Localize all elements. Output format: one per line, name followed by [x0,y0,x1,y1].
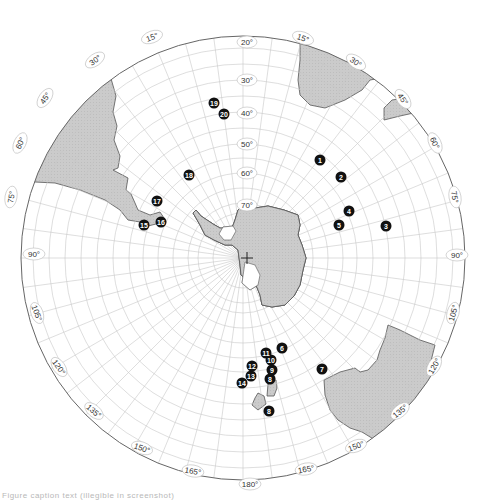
svg-text:4: 4 [347,208,351,215]
svg-text:16: 16 [157,219,165,226]
svg-text:165°: 165° [297,464,315,476]
station-marker[interactable]: 2 [336,172,347,183]
latitude-label: 40° [237,107,257,119]
svg-text:8: 8 [268,376,272,383]
station-marker[interactable]: 4 [344,206,355,217]
svg-text:165°: 165° [184,466,202,478]
longitude-label: 90° [446,249,468,261]
svg-text:30°: 30° [241,76,253,85]
svg-text:7: 7 [320,366,324,373]
svg-text:70°: 70° [241,201,253,210]
svg-text:19: 19 [210,100,218,107]
svg-text:3: 3 [384,223,388,230]
svg-text:9: 9 [270,367,274,374]
station-marker[interactable]: 19 [209,98,220,109]
svg-text:50°: 50° [241,140,253,149]
svg-text:11: 11 [262,350,270,357]
station-marker[interactable]: 1 [315,155,326,166]
svg-text:14: 14 [238,380,246,387]
longitude-label: 45° [34,86,56,111]
longitude-label: 30° [83,49,108,71]
svg-text:2: 2 [339,174,343,181]
svg-text:15: 15 [140,222,148,229]
station-marker[interactable]: 8 [264,406,275,417]
svg-text:5: 5 [337,222,341,229]
station-marker[interactable]: 14 [237,378,248,389]
svg-text:18: 18 [185,172,193,179]
station-marker[interactable]: 7 [317,364,328,375]
station-marker[interactable]: 3 [381,221,392,232]
svg-text:40°: 40° [241,109,253,118]
latitude-label: 60° [237,167,257,179]
svg-text:13: 13 [247,373,255,380]
station-marker[interactable]: 15 [139,220,150,231]
svg-text:20: 20 [220,111,228,118]
latitude-label: 30° [237,74,257,86]
station-marker[interactable]: 6 [277,343,288,354]
station-marker[interactable]: 13 [246,371,257,382]
latitude-label: 50° [237,138,257,150]
svg-text:17: 17 [153,198,161,205]
station-marker[interactable]: 16 [156,217,167,228]
longitude-label: 180° [239,478,261,490]
figure-caption: Figure caption text (illegible in screen… [2,491,174,500]
station-marker[interactable]: 17 [152,196,163,207]
svg-text:1: 1 [318,157,322,164]
station-marker[interactable]: 5 [334,220,345,231]
station-marker[interactable]: 9 [267,365,278,376]
svg-text:90°: 90° [451,251,463,260]
svg-text:12: 12 [248,363,256,370]
station-marker[interactable]: 12 [247,361,258,372]
svg-text:60°: 60° [241,169,253,178]
longitude-label: 15° [140,28,165,47]
longitude-label: 90° [23,248,45,260]
longitude-label: 75° [3,185,19,209]
svg-text:20°: 20° [241,38,253,47]
longitude-label: 60° [10,130,30,155]
latitude-label: 20° [237,36,257,48]
station-marker[interactable]: 20 [219,109,230,120]
station-marker[interactable]: 18 [184,170,195,181]
svg-text:8: 8 [267,408,271,415]
station-marker[interactable]: 11 [261,348,272,359]
svg-text:180°: 180° [242,480,259,489]
latitude-label: 70° [237,199,257,211]
polar-map: 15°30°45°60°75°90°105°120°135°150°165°18… [0,0,486,504]
svg-text:90°: 90° [28,250,40,259]
svg-text:6: 6 [280,345,284,352]
